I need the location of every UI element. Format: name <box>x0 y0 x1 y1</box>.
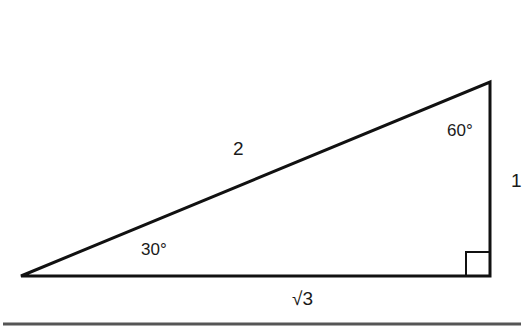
angle-60-label: 60° <box>447 121 473 141</box>
long-leg-label: √3 <box>292 288 313 310</box>
triangle-figure <box>0 0 524 328</box>
right-triangle <box>21 82 490 276</box>
angle-30-label: 30° <box>141 240 167 260</box>
short-leg-label: 1 <box>511 170 522 192</box>
right-angle-marker <box>466 252 490 276</box>
hypotenuse-label: 2 <box>233 138 244 160</box>
